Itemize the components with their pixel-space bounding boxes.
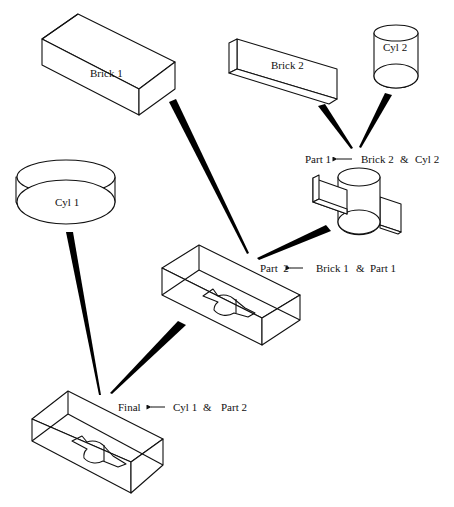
part2-right-operand: Part 1 (370, 262, 396, 274)
cyl1-shape: Cyl 1 (16, 160, 115, 224)
part2-left-operand: Brick 1 (316, 262, 349, 274)
csg-tree-diagram: Brick 1 Brick 2 Cyl 2 Part 1 Brick 2 & C… (0, 0, 454, 507)
brick2-shape: Brick 2 (229, 39, 337, 104)
cyl2-shape: Cyl 2 (374, 25, 418, 88)
operation-part2: Part 2 Brick 1 & Part 1 (260, 262, 396, 274)
operation-final: Final Cyl 1 & Part 2 (118, 401, 247, 413)
part1-operator: & (400, 153, 409, 165)
part1-right-operand: Cyl 2 (415, 153, 439, 165)
final-right-operand: Part 2 (221, 401, 247, 413)
wedge-cyl1-to-final (66, 232, 101, 395)
wedge-brick2-to-part1 (318, 104, 353, 149)
final-operator: & (203, 401, 212, 413)
part2-result-label: Part 2 (260, 262, 289, 274)
part2-shape (162, 245, 300, 345)
final-left-operand: Cyl 1 (173, 401, 197, 413)
brick1-shape: Brick 1 (42, 14, 175, 115)
final-result-label: Final (118, 401, 141, 413)
cyl2-label: Cyl 2 (383, 41, 407, 53)
wedge-brick1-to-part2 (169, 99, 249, 254)
brick2-label: Brick 2 (271, 59, 304, 71)
cyl1-label: Cyl 1 (55, 196, 79, 208)
wedge-part1-to-part2 (257, 225, 331, 260)
final-shape (32, 391, 163, 493)
part2-operator: & (356, 262, 365, 274)
brick1-label: Brick 1 (90, 67, 123, 79)
part1-result-label: Part 1 (305, 153, 331, 165)
wedge-cyl2-to-part1 (359, 93, 392, 148)
part1-shape (313, 168, 401, 235)
part1-left-operand: Brick 2 (361, 153, 394, 165)
wedge-part2-to-final (110, 321, 186, 394)
operation-part1: Part 1 Brick 2 & Cyl 2 (305, 153, 439, 165)
